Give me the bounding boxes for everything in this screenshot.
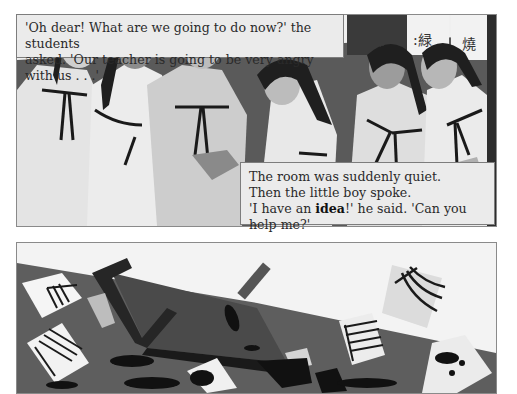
caption-line: The room was suddenly quiet. — [249, 169, 486, 185]
caption-line: 'I have an idea!' he said. 'Can you help… — [249, 201, 486, 233]
illustration-panel-overturned-desk — [16, 242, 497, 394]
caption-line: Then the little boy spoke. — [249, 185, 486, 201]
svg-text:燒: 燒 — [462, 36, 476, 52]
overturned-desk-illustration — [17, 243, 496, 393]
caption-line: asked. 'Our teacher is going to be very … — [25, 52, 335, 84]
narration-caption-bottom: The room was suddenly quiet. Then the li… — [240, 162, 495, 225]
emphasized-word: idea — [315, 201, 345, 216]
caption-line: 'Oh dear! What are we going to do now?' … — [25, 20, 335, 52]
narration-caption-top: 'Oh dear! What are we going to do now?' … — [16, 14, 344, 58]
svg-text::緑: :緑 — [413, 32, 432, 48]
caption-text: 'I have an — [249, 201, 315, 216]
